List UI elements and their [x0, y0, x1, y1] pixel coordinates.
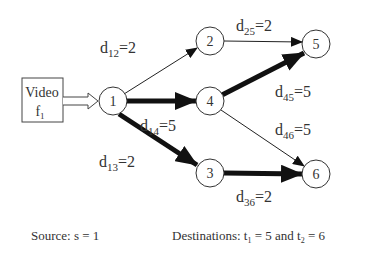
svg-text:6: 6	[313, 167, 320, 182]
edge-4-5	[222, 53, 304, 95]
video-source-box: Video f1	[22, 78, 63, 122]
source-caption: Source: s = 1	[31, 228, 99, 243]
destinations-caption: Destinations: t1 = 5 and t2 = 6	[172, 228, 326, 245]
svg-text:3: 3	[207, 166, 214, 181]
label-d36: d36=2	[236, 188, 272, 208]
svg-text:4: 4	[207, 94, 214, 109]
node-3: 3	[196, 159, 224, 187]
node-6: 6	[302, 160, 330, 188]
label-d25: d25=2	[236, 17, 272, 37]
label-d45: d45=5	[275, 83, 311, 103]
node-5: 5	[302, 30, 330, 58]
node-4: 4	[196, 87, 224, 115]
edge-3-6	[224, 173, 302, 174]
input-arrow	[63, 93, 98, 109]
node-2: 2	[196, 27, 224, 55]
edge-2-5	[224, 41, 302, 42]
svg-text:2: 2	[207, 34, 214, 49]
label-d46: d46=5	[275, 121, 311, 141]
svg-text:5: 5	[313, 37, 320, 52]
svg-text:1: 1	[110, 94, 117, 109]
label-d12: d12=2	[100, 39, 136, 59]
network-diagram: Video f1 1 2 3 4	[0, 0, 378, 258]
video-label: Video	[25, 85, 58, 100]
label-d13: d13=2	[99, 153, 135, 173]
node-1: 1	[99, 87, 127, 115]
